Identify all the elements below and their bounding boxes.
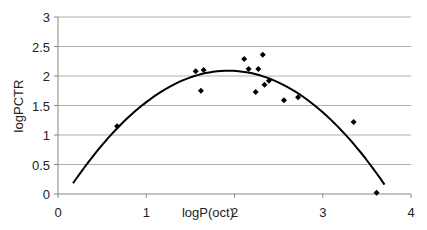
- x-tick-label: 0: [54, 205, 61, 220]
- x-tick-label: 4: [407, 205, 414, 220]
- y-tick-label: 3: [43, 10, 50, 25]
- y-tick-label: 0.5: [32, 158, 50, 173]
- data-point: [374, 190, 380, 196]
- data-point: [246, 66, 252, 72]
- y-tick-label: 1.5: [32, 99, 50, 114]
- y-tick-label: 2.5: [32, 40, 50, 55]
- data-point: [260, 52, 266, 58]
- data-point: [241, 56, 247, 62]
- y-tick-label: 2: [43, 69, 50, 84]
- x-tick-label: 1: [143, 205, 150, 220]
- fit-curve: [73, 71, 385, 185]
- data-point: [114, 123, 120, 129]
- y-tick-label: 0: [43, 187, 50, 202]
- data-point: [198, 88, 204, 94]
- data-point: [351, 119, 357, 125]
- x-tick-label: 3: [319, 205, 326, 220]
- data-point: [262, 82, 268, 88]
- y-axis-label: logPCTR: [11, 80, 26, 133]
- chart: 00.511.522.5301234logP(oct)logPCTR: [0, 0, 427, 230]
- x-axis-label: logP(oct): [182, 205, 234, 220]
- data-point: [193, 68, 199, 74]
- data-point: [255, 66, 261, 72]
- y-tick-label: 1: [43, 128, 50, 143]
- data-point: [281, 97, 287, 103]
- data-point: [253, 89, 259, 95]
